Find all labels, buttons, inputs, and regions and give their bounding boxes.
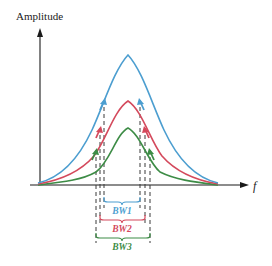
bandwidth-figure: Amplitude f <box>0 0 272 266</box>
x-axis-label: f <box>253 179 258 193</box>
curve-bw2 <box>38 101 218 184</box>
bandwidth-bracket-bw1: BW1 <box>104 197 140 216</box>
bandwidth-bracket-bw3: BW3 <box>96 233 150 252</box>
y-axis <box>37 28 43 185</box>
bandwidth-label-bw3: BW3 <box>111 242 132 252</box>
bandwidth-label-bw2: BW2 <box>111 224 132 234</box>
curve-bw1 <box>38 55 218 183</box>
resonance-curves <box>38 55 218 185</box>
bandwidth-label-bw1: BW1 <box>111 206 132 216</box>
y-axis-label: Amplitude <box>16 10 63 22</box>
chart-canvas: Amplitude f <box>0 0 272 266</box>
bandwidth-bracket-bw2: BW2 <box>100 215 145 234</box>
x-axis-arrowhead <box>240 182 249 188</box>
y-axis-arrowhead <box>37 28 43 37</box>
